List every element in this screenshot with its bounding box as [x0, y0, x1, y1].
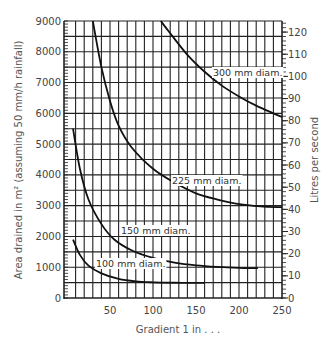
y-tick-label: 7000: [36, 77, 61, 88]
curve-label: 150 mm diam.: [121, 225, 190, 236]
right-y-axis-title: Litres per second: [309, 117, 320, 203]
y-tick-label: 5000: [36, 139, 61, 150]
x-axis-title: Gradient 1 in . . .: [136, 324, 220, 335]
right-y-tick-label: 50: [288, 182, 301, 193]
right-y-tick-label: 90: [288, 93, 301, 104]
y-tick-label: 4000: [36, 169, 61, 180]
right-y-tick-label: 10: [288, 270, 301, 281]
right-y-tick-label: 100: [288, 71, 307, 82]
y-axis-title: Area drained in m² (assuming 50 mm/h rai…: [13, 41, 24, 280]
y-tick-label: 8000: [36, 46, 61, 57]
curve-label: 300 mm diam.: [213, 67, 282, 78]
bottom-axis: 50100150200250: [64, 298, 292, 316]
y-tick-label: 3000: [36, 200, 61, 211]
grid-lines: [64, 21, 282, 298]
x-tick-label: 150: [186, 305, 205, 316]
right-y-tick-label: 30: [288, 226, 301, 237]
right-y-tick-label: 120: [288, 27, 307, 38]
curves: [73, 21, 282, 283]
chart: 0100020003000400050006000700080009000 01…: [0, 0, 329, 342]
x-tick-label: 250: [272, 305, 291, 316]
right-y-tick-label: 40: [288, 204, 301, 215]
y-tick-label: 1000: [36, 262, 61, 273]
curve-label: 225 mm diam.: [172, 175, 241, 186]
right-y-tick-label: 20: [288, 248, 301, 259]
y-tick-label: 6000: [36, 108, 61, 119]
right-y-tick-label: 60: [288, 160, 301, 171]
x-tick-label: 100: [143, 305, 162, 316]
left-axis: 0100020003000400050006000700080009000: [36, 16, 68, 304]
y-tick-label: 2000: [36, 231, 61, 242]
right-axis: 0102030405060708090100110120: [282, 21, 307, 304]
right-y-tick-label: 110: [288, 49, 307, 60]
right-y-tick-label: 0: [288, 293, 294, 304]
y-tick-label: 0: [55, 293, 61, 304]
right-y-tick-label: 80: [288, 115, 301, 126]
curve-label: 100 mm diam.: [96, 258, 165, 269]
x-tick-label: 200: [229, 305, 248, 316]
right-y-tick-label: 70: [288, 137, 301, 148]
x-tick-label: 50: [104, 305, 117, 316]
curve-labels: 300 mm diam.225 mm diam.150 mm diam.100 …: [95, 67, 283, 269]
y-tick-label: 9000: [36, 16, 61, 27]
